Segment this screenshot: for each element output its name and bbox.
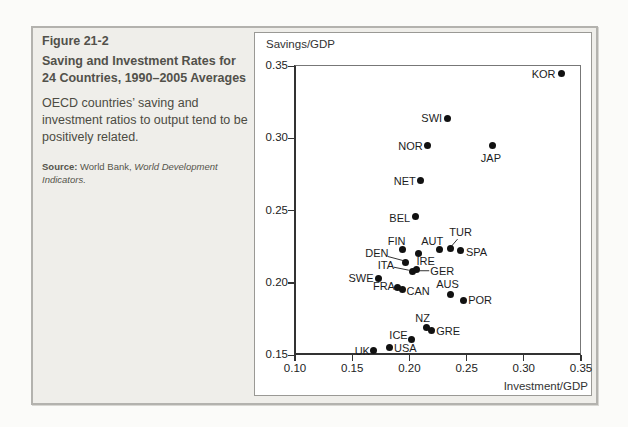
data-point-net xyxy=(417,177,424,184)
data-point-swi xyxy=(444,115,451,122)
x-tick-label: 0.30 xyxy=(504,362,544,374)
x-tick xyxy=(466,355,467,361)
y-tick xyxy=(288,138,295,139)
point-label-nz: NZ xyxy=(415,312,430,324)
data-point-bel xyxy=(412,213,419,220)
point-label-swe: SWE xyxy=(348,272,373,284)
point-label-fra: FRA xyxy=(373,280,395,292)
figure-number: Figure 21-2 xyxy=(42,34,252,48)
x-tick-label: 0.15 xyxy=(332,362,372,374)
data-point-aut xyxy=(436,246,443,253)
y-tick-label: 0.35 xyxy=(255,59,288,71)
point-label-bel: BEL xyxy=(389,212,410,224)
figure-caption: Figure 21-2 Saving and Investment Rates … xyxy=(42,34,252,187)
x-tick xyxy=(523,355,524,361)
y-tick xyxy=(288,210,295,211)
source-label: Source: xyxy=(42,161,77,172)
x-tick xyxy=(580,355,581,361)
figure-title: Saving and Investment Rates for 24 Count… xyxy=(42,53,252,87)
data-point-ger xyxy=(413,266,420,273)
x-tick xyxy=(409,355,410,361)
x-tick xyxy=(352,355,353,361)
y-axis-title: Savings/GDP xyxy=(266,38,335,50)
scatter-chart: Savings/GDP 0.150.200.250.300.350.100.15… xyxy=(254,32,592,396)
x-tick-label: 0.25 xyxy=(447,362,487,374)
point-label-can: CAN xyxy=(407,285,430,297)
point-label-swi: SWI xyxy=(421,112,442,124)
y-tick xyxy=(288,282,295,283)
point-label-jap: JAP xyxy=(481,152,501,164)
point-label-den: DEN xyxy=(365,247,388,259)
y-tick-label: 0.20 xyxy=(255,276,288,288)
data-point-aus xyxy=(447,291,454,298)
y-tick xyxy=(288,66,295,67)
x-tick-label: 0.10 xyxy=(275,362,315,374)
y-tick-label: 0.30 xyxy=(255,131,288,143)
point-label-ger: GER xyxy=(430,265,454,277)
figure-description: OECD countries’ saving and investment ra… xyxy=(42,95,252,147)
point-label-uk: UK xyxy=(355,345,370,357)
point-label-ice: ICE xyxy=(389,329,407,341)
x-tick-label: 0.20 xyxy=(389,362,429,374)
y-tick-label: 0.25 xyxy=(255,204,288,216)
point-label-por: POR xyxy=(468,294,492,306)
data-point-kor xyxy=(558,70,565,77)
data-point-por xyxy=(460,297,467,304)
y-tick-label: 0.15 xyxy=(255,348,288,360)
point-label-nor: NOR xyxy=(398,140,422,152)
data-point-tur xyxy=(447,245,454,252)
point-label-gre: GRE xyxy=(436,325,460,337)
point-label-aut: AUT xyxy=(421,235,443,247)
data-point-gre xyxy=(428,327,435,334)
point-label-spa: SPA xyxy=(466,246,487,258)
point-label-net: NET xyxy=(394,175,416,187)
x-tick xyxy=(294,355,295,361)
source-text: World Bank, xyxy=(77,161,134,172)
data-point-fin xyxy=(399,246,406,253)
x-tick-label: 0.35 xyxy=(561,362,601,374)
point-label-kor: KOR xyxy=(532,68,556,80)
point-label-ita: ITA xyxy=(378,259,394,271)
point-label-tur: TUR xyxy=(449,226,472,238)
figure-source: Source: World Bank, World Development In… xyxy=(42,160,252,188)
point-label-aus: AUS xyxy=(436,278,459,290)
x-axis-title: Investment/GDP xyxy=(504,380,588,392)
plot-frame xyxy=(294,65,581,355)
point-label-fin: FIN xyxy=(388,235,406,247)
point-label-usa: USA xyxy=(394,342,417,354)
figure-panel: Figure 21-2 Saving and Investment Rates … xyxy=(31,26,598,405)
